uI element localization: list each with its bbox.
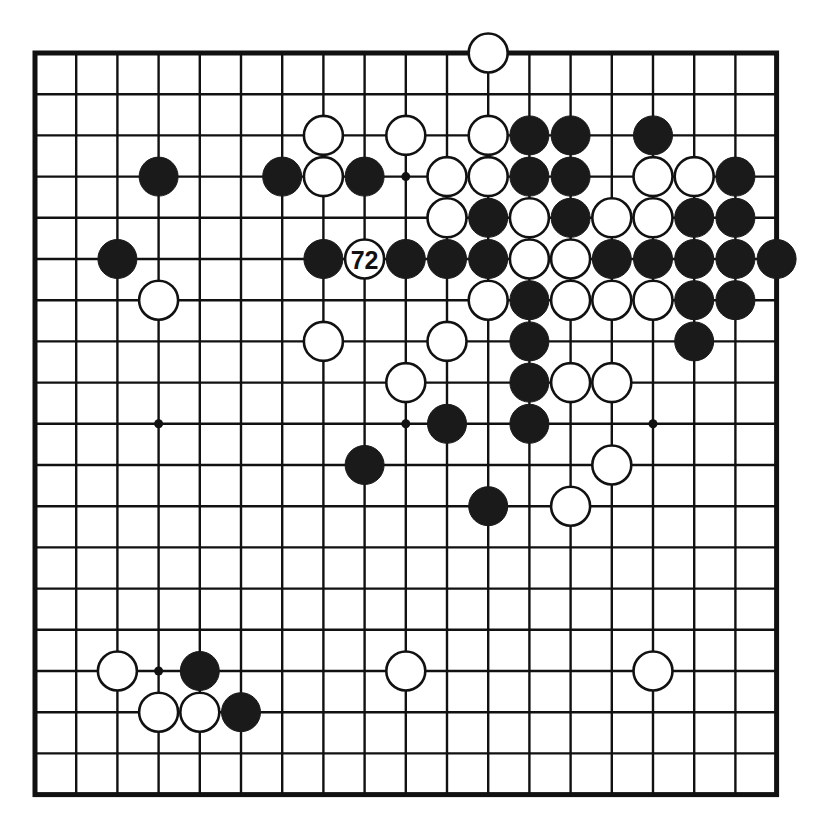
white-stone[interactable] xyxy=(386,363,425,402)
black-stone[interactable] xyxy=(510,157,549,196)
black-stone[interactable] xyxy=(263,157,302,196)
white-stone[interactable] xyxy=(304,116,343,155)
white-stone[interactable] xyxy=(634,281,673,320)
black-stone[interactable] xyxy=(634,116,673,155)
white-stone[interactable] xyxy=(428,322,467,361)
white-stone[interactable] xyxy=(428,198,467,237)
black-stone[interactable] xyxy=(716,240,755,279)
white-stone[interactable] xyxy=(139,281,178,320)
white-stone[interactable] xyxy=(551,363,590,402)
white-stone[interactable] xyxy=(98,652,137,691)
white-stone[interactable] xyxy=(469,116,508,155)
black-stone[interactable] xyxy=(510,281,549,320)
black-stone[interactable] xyxy=(510,322,549,361)
white-stone[interactable] xyxy=(634,652,673,691)
move-number-label: 72 xyxy=(351,246,379,274)
white-stone[interactable] xyxy=(634,157,673,196)
white-stone[interactable] xyxy=(551,281,590,320)
white-stone[interactable] xyxy=(592,446,631,485)
white-stone[interactable] xyxy=(469,281,508,320)
black-stone[interactable] xyxy=(757,240,796,279)
black-stone[interactable] xyxy=(386,240,425,279)
black-stone[interactable] xyxy=(469,198,508,237)
black-stone[interactable] xyxy=(716,157,755,196)
white-stone[interactable] xyxy=(304,322,343,361)
diagram-page: 72 xyxy=(0,0,824,815)
black-stone[interactable] xyxy=(180,652,219,691)
white-stone[interactable] xyxy=(428,157,467,196)
black-stone[interactable] xyxy=(428,240,467,279)
white-stone[interactable] xyxy=(510,198,549,237)
black-stone[interactable] xyxy=(716,198,755,237)
black-stone[interactable] xyxy=(592,240,631,279)
white-stone[interactable] xyxy=(386,652,425,691)
white-stone[interactable] xyxy=(386,116,425,155)
star-point xyxy=(401,172,410,181)
black-stone[interactable] xyxy=(510,116,549,155)
white-stone[interactable] xyxy=(469,157,508,196)
black-stone[interactable] xyxy=(139,157,178,196)
star-point xyxy=(649,419,658,428)
black-stone[interactable] xyxy=(345,446,384,485)
black-stone[interactable] xyxy=(469,487,508,526)
star-point xyxy=(401,419,410,428)
black-stone[interactable] xyxy=(469,240,508,279)
black-stone[interactable] xyxy=(510,363,549,402)
white-stone[interactable] xyxy=(634,198,673,237)
move-number-layer: 72 xyxy=(351,246,379,274)
white-stone[interactable] xyxy=(551,240,590,279)
black-stone[interactable] xyxy=(551,198,590,237)
black-stone[interactable] xyxy=(716,281,755,320)
black-stone[interactable] xyxy=(222,693,261,732)
black-stone[interactable] xyxy=(304,240,343,279)
black-stone[interactable] xyxy=(675,198,714,237)
black-stone[interactable] xyxy=(675,240,714,279)
black-stone[interactable] xyxy=(428,404,467,443)
black-stone[interactable] xyxy=(98,240,137,279)
go-board[interactable]: 72 xyxy=(0,0,824,815)
white-stone[interactable] xyxy=(592,198,631,237)
white-stone[interactable] xyxy=(675,157,714,196)
black-stone[interactable] xyxy=(551,157,590,196)
star-point xyxy=(154,667,163,676)
white-stone[interactable] xyxy=(180,693,219,732)
black-stone[interactable] xyxy=(675,322,714,361)
black-stone[interactable] xyxy=(551,116,590,155)
go-board-canvas[interactable]: 72 xyxy=(0,0,824,815)
white-stone[interactable] xyxy=(592,281,631,320)
star-point xyxy=(154,419,163,428)
white-stone[interactable] xyxy=(551,487,590,526)
white-stone[interactable] xyxy=(139,693,178,732)
white-stone[interactable] xyxy=(592,363,631,402)
black-stone[interactable] xyxy=(675,281,714,320)
black-stone[interactable] xyxy=(510,404,549,443)
white-stone[interactable] xyxy=(304,157,343,196)
white-stone[interactable] xyxy=(510,240,549,279)
white-stone[interactable] xyxy=(469,34,508,73)
black-stone[interactable] xyxy=(345,157,384,196)
black-stone[interactable] xyxy=(634,240,673,279)
